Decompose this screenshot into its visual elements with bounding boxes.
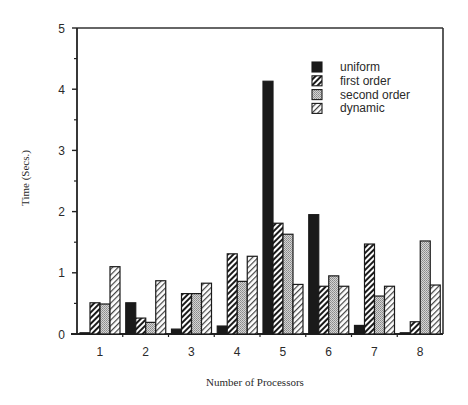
bar-dynamic-5 (293, 284, 303, 334)
y-tick-label: 5 (58, 22, 65, 36)
bar-dynamic-8 (430, 285, 440, 334)
bar-second-order-7 (375, 296, 385, 334)
x-axis: 12345678 (97, 334, 424, 359)
bars (80, 81, 440, 334)
bar-second-order-1 (100, 304, 110, 334)
x-tick-label: 8 (417, 345, 424, 359)
bar-dynamic-7 (385, 286, 395, 334)
y-axis-title: Time (Secs.) (19, 150, 32, 206)
bar-uniform-2 (126, 303, 136, 334)
legend-label-second-order: second order (340, 88, 410, 102)
x-tick-label: 7 (371, 345, 378, 359)
legend: uniformfirst ordersecond orderdynamic (312, 60, 410, 115)
bar-second-order-2 (146, 322, 156, 334)
chart: 012345 12345678 Time (Secs.) Number of P… (0, 0, 468, 405)
legend-swatch-second-order (312, 90, 322, 100)
bar-uniform-1 (80, 333, 90, 334)
bar-second-order-6 (329, 276, 339, 334)
bar-first-order-6 (319, 286, 329, 334)
x-tick-label: 1 (97, 345, 104, 359)
bar-dynamic-1 (110, 267, 120, 334)
bar-first-order-8 (410, 322, 420, 334)
bar-second-order-4 (237, 281, 247, 334)
bar-uniform-3 (172, 329, 182, 334)
y-tick-label: 4 (58, 83, 65, 97)
bar-first-order-1 (90, 303, 100, 334)
bar-first-order-2 (136, 318, 146, 334)
legend-swatch-dynamic (312, 103, 322, 113)
x-tick-label: 3 (188, 345, 195, 359)
legend-label-dynamic: dynamic (340, 101, 385, 115)
bar-first-order-4 (227, 254, 237, 334)
y-tick-label: 1 (58, 266, 65, 280)
y-tick-label: 3 (58, 144, 65, 158)
y-tick-label: 2 (58, 205, 65, 219)
bar-dynamic-2 (156, 281, 166, 334)
x-tick-label: 4 (234, 345, 241, 359)
x-axis-title: Number of Processors (206, 376, 304, 388)
bar-uniform-6 (309, 215, 319, 334)
bar-second-order-5 (283, 234, 293, 334)
bar-dynamic-4 (247, 256, 257, 334)
bar-first-order-7 (365, 244, 375, 334)
bar-second-order-3 (192, 294, 202, 334)
bar-second-order-8 (420, 241, 430, 334)
bar-first-order-3 (182, 294, 192, 334)
bar-dynamic-3 (202, 283, 212, 334)
bar-uniform-8 (400, 333, 410, 334)
legend-swatch-uniform (312, 62, 322, 72)
bar-uniform-5 (263, 81, 273, 334)
legend-label-uniform: uniform (340, 60, 380, 74)
legend-label-first-order: first order (340, 74, 391, 88)
bar-dynamic-6 (339, 286, 349, 334)
bar-first-order-5 (273, 223, 283, 334)
y-tick-label: 0 (58, 328, 65, 342)
legend-swatch-first-order (312, 76, 322, 86)
x-tick-label: 5 (280, 345, 287, 359)
y-axis: 012345 (58, 22, 77, 342)
x-tick-label: 2 (142, 345, 149, 359)
x-tick-label: 6 (325, 345, 332, 359)
bar-uniform-4 (217, 326, 227, 334)
bar-uniform-7 (355, 325, 365, 334)
